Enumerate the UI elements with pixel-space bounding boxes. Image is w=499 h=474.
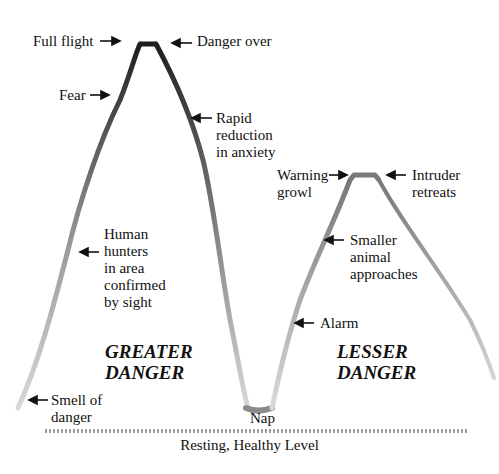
label-smell-of-danger: Smell ofdanger	[51, 392, 102, 426]
label-full-flight: Full flight	[33, 33, 93, 50]
baseline-label: Resting, Healthy Level	[0, 437, 499, 454]
label-human-hunters: Humanhuntersin areaconfirmedby sight	[104, 226, 166, 311]
region-lesser-danger: LESSERDANGER	[337, 341, 416, 383]
label-danger-over: Danger over	[197, 33, 272, 50]
label-warning-growl: Warninggrowl	[277, 167, 328, 201]
label-intruder-retreats: Intruderretreats	[412, 167, 460, 201]
label-fear: Fear	[59, 87, 86, 104]
plateau-lesser	[350, 175, 379, 180]
label-rapid-reduction: Rapidreductionin anxiety	[216, 110, 276, 161]
label-smaller-animal: Smalleranimalapproaches	[350, 232, 417, 283]
label-alarm: Alarm	[320, 315, 358, 332]
region-greater-danger: GREATERDANGER	[105, 341, 193, 383]
label-nap: Nap	[250, 410, 275, 427]
